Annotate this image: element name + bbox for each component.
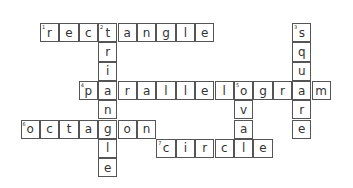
cell-letter: t: [105, 26, 110, 40]
crossword-cell[interactable]: v: [234, 100, 253, 119]
crossword-cell[interactable]: l: [176, 23, 195, 42]
cell-letter: q: [298, 45, 306, 59]
cell-letter: c: [163, 141, 170, 155]
cell-letter: o: [124, 122, 131, 136]
cell-letter: g: [162, 26, 170, 40]
crossword-cell[interactable]: a: [137, 81, 156, 100]
crossword-cell[interactable]: c: [215, 139, 234, 158]
crossword-cell[interactable]: c: [40, 120, 59, 139]
clue-number: 5: [236, 82, 239, 88]
cell-letter: e: [201, 84, 208, 98]
crossword-cell[interactable]: c7: [156, 139, 175, 158]
crossword-cell[interactable]: r: [195, 139, 214, 158]
cell-letter: g: [259, 84, 267, 98]
cell-letter: l: [184, 84, 187, 98]
crossword-cell[interactable]: l: [234, 139, 253, 158]
cell-letter: i: [184, 141, 187, 155]
crossword-cell[interactable]: e: [195, 23, 214, 42]
crossword-cell[interactable]: l: [215, 81, 234, 100]
clue-number: 4: [81, 82, 84, 88]
cell-letter: l: [164, 84, 167, 98]
cell-letter: a: [124, 26, 131, 40]
clue-number: 7: [158, 140, 161, 146]
crossword-cell[interactable]: a: [98, 81, 117, 100]
crossword-cell[interactable]: i: [176, 139, 195, 158]
crossword-cell[interactable]: a: [234, 120, 253, 139]
crossword-cell[interactable]: r: [292, 100, 311, 119]
cell-letter: r: [47, 26, 52, 40]
crossword-cell[interactable]: m: [312, 81, 331, 100]
crossword-cell[interactable]: l: [176, 81, 195, 100]
crossword-cell[interactable]: q: [292, 42, 311, 61]
cell-letter: a: [104, 84, 111, 98]
cell-letter: v: [240, 103, 247, 117]
cell-letter: n: [104, 103, 112, 117]
crossword-cell[interactable]: o6: [21, 120, 40, 139]
clue-number: 1: [42, 24, 45, 30]
crossword-cell[interactable]: s3: [292, 23, 311, 42]
crossword-cell[interactable]: l: [156, 81, 175, 100]
cell-letter: a: [298, 84, 305, 98]
cell-letter: r: [125, 84, 130, 98]
cell-letter: r: [202, 141, 207, 155]
crossword-cell[interactable]: e: [59, 23, 78, 42]
crossword-cell[interactable]: o: [118, 120, 137, 139]
crossword-cell[interactable]: r1: [40, 23, 59, 42]
crossword-cell[interactable]: e: [195, 81, 214, 100]
cell-letter: r: [280, 84, 285, 98]
cell-letter: l: [242, 141, 245, 155]
crossword-grid: r1ect2angleriangles3quarep4rallelo5grmva…: [0, 0, 353, 188]
crossword-cell[interactable]: g: [253, 81, 272, 100]
cell-letter: c: [85, 26, 92, 40]
cell-letter: s: [299, 26, 305, 40]
cell-letter: p: [85, 84, 93, 98]
crossword-cell[interactable]: g: [156, 23, 175, 42]
crossword-cell[interactable]: t2: [98, 23, 117, 42]
crossword-cell[interactable]: e: [98, 158, 117, 177]
clue-number: 3: [294, 24, 297, 30]
crossword-cell[interactable]: r: [273, 81, 292, 100]
crossword-cell[interactable]: n: [137, 120, 156, 139]
cell-letter: r: [105, 45, 110, 59]
crossword-cell[interactable]: a: [118, 23, 137, 42]
cell-letter: g: [104, 122, 112, 136]
cell-letter: e: [65, 26, 72, 40]
cell-letter: a: [85, 122, 92, 136]
cell-letter: e: [259, 141, 266, 155]
crossword-cell[interactable]: l: [98, 139, 117, 158]
crossword-cell[interactable]: r: [98, 42, 117, 61]
cell-letter: i: [106, 64, 109, 78]
cell-letter: n: [143, 26, 151, 40]
cell-letter: l: [106, 141, 109, 155]
crossword-cell[interactable]: e: [253, 139, 272, 158]
crossword-cell[interactable]: n: [137, 23, 156, 42]
cell-letter: m: [315, 84, 327, 98]
crossword-cell[interactable]: u: [292, 62, 311, 81]
cell-letter: e: [104, 161, 111, 175]
cell-letter: a: [143, 84, 150, 98]
crossword-cell[interactable]: n: [98, 100, 117, 119]
cell-letter: o: [240, 84, 247, 98]
cell-letter: a: [240, 122, 247, 136]
cell-letter: t: [67, 122, 72, 136]
cell-letter: r: [299, 103, 304, 117]
crossword-cell[interactable]: o5: [234, 81, 253, 100]
clue-number: 2: [100, 24, 103, 30]
crossword-cell[interactable]: g: [98, 120, 117, 139]
crossword-cell[interactable]: a: [79, 120, 98, 139]
cell-letter: l: [184, 26, 187, 40]
cell-letter: c: [46, 122, 53, 136]
cell-letter: u: [298, 64, 306, 78]
crossword-cell[interactable]: c: [79, 23, 98, 42]
cell-letter: c: [221, 141, 228, 155]
crossword-cell[interactable]: t: [59, 120, 78, 139]
crossword-cell[interactable]: e: [292, 120, 311, 139]
crossword-cell[interactable]: r: [118, 81, 137, 100]
cell-letter: o: [27, 122, 34, 136]
cell-letter: n: [143, 122, 151, 136]
clue-number: 6: [23, 121, 26, 127]
cell-letter: e: [201, 26, 208, 40]
crossword-cell[interactable]: a: [292, 81, 311, 100]
crossword-cell[interactable]: p4: [79, 81, 98, 100]
crossword-cell[interactable]: i: [98, 62, 117, 81]
